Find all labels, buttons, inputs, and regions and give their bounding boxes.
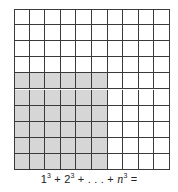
grid-cell	[123, 41, 139, 57]
sum-of-cubes-caption: 13 + 23 + . . . + n3 =	[0, 172, 178, 187]
grid-cell	[139, 73, 155, 89]
grid-cell	[123, 9, 139, 25]
unit-square-grid	[14, 9, 170, 170]
shaded-cell	[61, 106, 77, 122]
grid-cell	[108, 122, 124, 138]
shaded-cell	[61, 154, 77, 170]
shaded-cell	[61, 138, 77, 154]
grid-cell	[154, 138, 170, 154]
grid-cell	[139, 138, 155, 154]
shaded-cell	[92, 73, 108, 89]
grid-cell	[154, 122, 170, 138]
grid-cell	[14, 41, 30, 57]
grid-cell	[61, 41, 77, 57]
grid-cell	[139, 57, 155, 73]
grid-cell	[108, 41, 124, 57]
grid-cell	[123, 138, 139, 154]
shaded-cell	[92, 154, 108, 170]
shaded-cell	[30, 138, 46, 154]
grid-cell	[123, 25, 139, 41]
grid-cell	[154, 90, 170, 106]
caption-operator: +	[51, 173, 64, 185]
grid-cell	[139, 41, 155, 57]
shaded-cell	[76, 90, 92, 106]
grid-cell	[154, 154, 170, 170]
grid-cell	[76, 57, 92, 73]
shaded-cell	[14, 106, 30, 122]
grid-cell	[123, 154, 139, 170]
grid-cell	[76, 41, 92, 57]
shaded-cell	[14, 122, 30, 138]
grid-cell	[14, 9, 30, 25]
grid-cell	[61, 9, 77, 25]
grid-cell	[30, 9, 46, 25]
grid-cell	[139, 122, 155, 138]
grid-cell	[154, 73, 170, 89]
shaded-cell	[30, 73, 46, 89]
caption-operator: + . . . +	[75, 173, 118, 185]
shaded-cell	[14, 138, 30, 154]
shaded-cell	[92, 138, 108, 154]
grid-cell	[30, 25, 46, 41]
grid-cell	[123, 73, 139, 89]
grid-cell	[154, 57, 170, 73]
grid-cell	[123, 90, 139, 106]
grid-cell	[108, 25, 124, 41]
grid-cell	[45, 9, 61, 25]
shaded-cell	[61, 122, 77, 138]
shaded-cell	[76, 73, 92, 89]
shaded-cell	[92, 122, 108, 138]
grid-cell	[108, 138, 124, 154]
grid-cell	[139, 106, 155, 122]
shaded-cell	[76, 122, 92, 138]
shaded-cell	[76, 154, 92, 170]
shaded-cell	[61, 90, 77, 106]
caption-operator: =	[127, 173, 137, 185]
grid-cell	[76, 25, 92, 41]
shaded-cell	[45, 106, 61, 122]
shaded-cell	[14, 154, 30, 170]
grid-cell	[108, 90, 124, 106]
grid-cell	[108, 9, 124, 25]
shaded-cell	[61, 73, 77, 89]
grid-cell	[61, 25, 77, 41]
grid-cell	[92, 57, 108, 73]
grid-cell	[108, 57, 124, 73]
grid-cell	[30, 57, 46, 73]
grid-cell	[154, 25, 170, 41]
shaded-cell	[45, 90, 61, 106]
grid-cell	[108, 73, 124, 89]
shaded-cell	[30, 106, 46, 122]
grid-cell	[154, 106, 170, 122]
grid-cell	[154, 41, 170, 57]
shaded-cell	[14, 73, 30, 89]
grid-cell	[76, 9, 92, 25]
shaded-cell	[14, 90, 30, 106]
grid-cell	[139, 25, 155, 41]
shaded-cell	[30, 122, 46, 138]
grid-cell	[139, 154, 155, 170]
grid-cell	[45, 57, 61, 73]
grid-cell	[154, 9, 170, 25]
shaded-cell	[30, 90, 46, 106]
shaded-cell	[45, 122, 61, 138]
grid-cell	[139, 9, 155, 25]
grid-cell	[45, 41, 61, 57]
grid-cell	[14, 57, 30, 73]
shaded-cell	[76, 106, 92, 122]
shaded-cell	[92, 90, 108, 106]
shaded-cell	[76, 138, 92, 154]
grid-cell	[30, 41, 46, 57]
shaded-cell	[30, 154, 46, 170]
grid-cell	[123, 106, 139, 122]
grid-cell	[108, 154, 124, 170]
shaded-cell	[45, 138, 61, 154]
shaded-cell	[45, 154, 61, 170]
shaded-cell	[92, 106, 108, 122]
grid-cell	[123, 57, 139, 73]
grid-cell	[139, 90, 155, 106]
grid-cell	[45, 25, 61, 41]
grid-cell	[92, 41, 108, 57]
grid-cell	[108, 106, 124, 122]
grid-cell	[61, 57, 77, 73]
